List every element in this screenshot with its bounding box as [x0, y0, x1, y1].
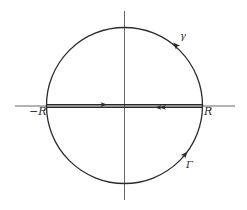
label-gamma: γ: [180, 31, 186, 41]
gamma-arrow-icon: [171, 41, 180, 50]
label-neg-r: −R: [29, 106, 47, 117]
label-pos-r: R: [204, 106, 212, 117]
label-Gamma: Γ: [186, 160, 193, 170]
contour-diagram: −R R γ Γ: [0, 0, 247, 210]
